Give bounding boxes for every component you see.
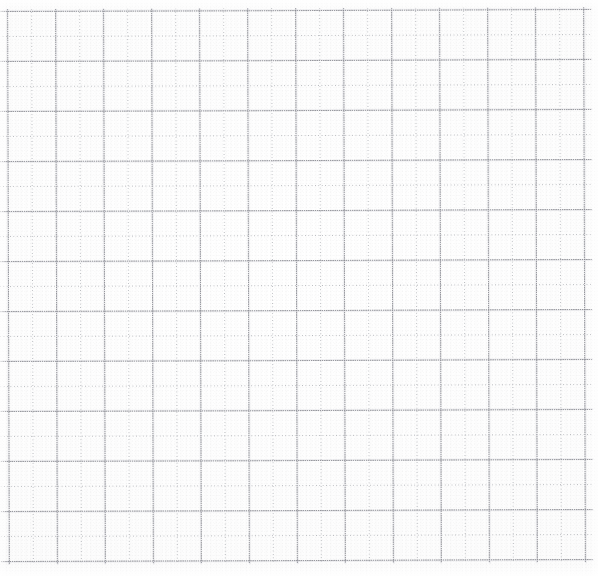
grid-line-horizontal — [0, 309, 592, 312]
grid-line-horizontal — [0, 184, 592, 187]
grid-line-horizontal — [0, 409, 592, 412]
grid-line-vertical — [271, 8, 274, 563]
grid-line-vertical — [247, 8, 250, 563]
grid-line-horizontal — [0, 259, 592, 262]
grid-line-horizontal — [0, 359, 592, 362]
grid-line-horizontal — [1, 459, 593, 462]
grid-line-vertical — [31, 9, 34, 564]
grid-line-horizontal — [0, 84, 591, 87]
grid-line-vertical — [391, 8, 394, 563]
grid-line-vertical — [175, 8, 178, 563]
grid-line-vertical — [535, 7, 538, 562]
grid-line-vertical — [151, 8, 154, 563]
grid-line-horizontal — [0, 384, 592, 387]
grid-layer — [0, 0, 598, 576]
grid-line-vertical — [7, 9, 10, 564]
graph-paper-page — [0, 0, 598, 576]
grid-line-vertical — [223, 8, 226, 563]
grid-line-vertical — [439, 8, 442, 563]
grid-line-horizontal — [0, 234, 592, 237]
grid-lines-container — [0, 0, 597, 1]
grid-line-vertical — [559, 7, 562, 562]
grid-line-vertical — [343, 8, 346, 563]
grid-line-horizontal — [0, 134, 592, 137]
grid-line-vertical — [367, 8, 370, 563]
grid-line-horizontal — [0, 59, 591, 62]
grid-line-horizontal — [1, 534, 593, 537]
grid-line-horizontal — [1, 484, 593, 487]
grid-line-horizontal — [0, 434, 592, 437]
grid-line-vertical — [127, 9, 130, 564]
grid-line-horizontal — [1, 509, 593, 512]
grid-line-horizontal — [0, 159, 592, 162]
grid-line-vertical — [79, 9, 82, 564]
grid-line-horizontal — [0, 34, 591, 37]
grid-line-vertical — [319, 8, 322, 563]
grid-line-horizontal — [0, 334, 592, 337]
grid-line-horizontal — [0, 209, 592, 212]
grid-line-horizontal — [1, 559, 593, 562]
grid-line-vertical — [463, 7, 466, 562]
grid-line-horizontal — [0, 284, 592, 287]
grid-line-vertical — [583, 7, 586, 562]
grid-line-vertical — [415, 8, 418, 563]
grid-line-horizontal — [0, 109, 591, 112]
grid-line-vertical — [199, 8, 202, 563]
grid-line-vertical — [295, 8, 298, 563]
grid-line-vertical — [55, 9, 58, 564]
grid-line-horizontal — [0, 9, 591, 12]
grid-line-vertical — [103, 9, 106, 564]
grid-line-vertical — [487, 7, 490, 562]
grid-line-vertical — [511, 7, 514, 562]
